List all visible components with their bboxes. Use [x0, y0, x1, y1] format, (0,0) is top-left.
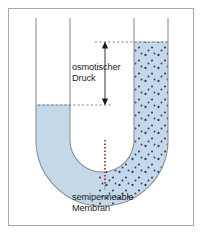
membrane-label-line1: semipermeable [72, 192, 134, 203]
osmotic-pressure-label-line1: osmotischer [72, 62, 120, 73]
pressure-arrow-head-down [102, 99, 108, 106]
semipermeable-membrane-label: semipermeable Membran [72, 192, 134, 215]
tube-inner-wall [70, 18, 134, 172]
osmotic-pressure-label-line2: Druck [72, 73, 120, 84]
membrane-label-line2: Membran [72, 203, 134, 214]
pressure-arrow-head-up [102, 42, 108, 49]
osmotic-pressure-label: osmotischer Druck [72, 62, 120, 85]
osmotic-pressure-figure: osmotischer Druck semipermeable Membran [0, 0, 207, 240]
